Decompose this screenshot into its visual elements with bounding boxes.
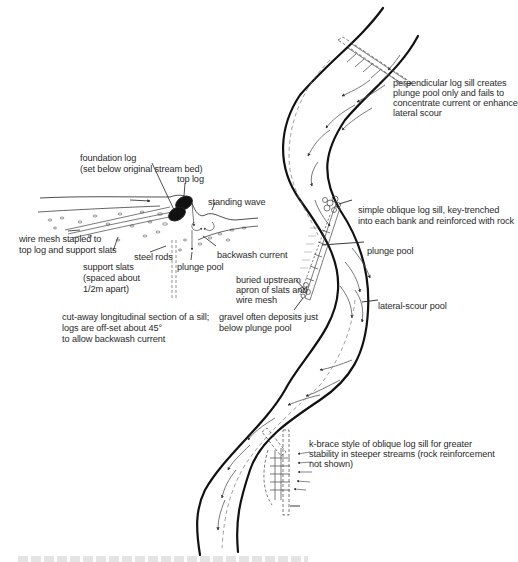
label-oblique-line2: into each bank and reinforced with rock (358, 216, 514, 227)
label-section-plunge-pool: plunge pool (177, 262, 223, 273)
label-plan-plunge-pool: plunge pool (367, 246, 413, 257)
label-gravel-line2: below plunge pool (219, 323, 291, 334)
upstream-apron-hatch (300, 228, 318, 268)
stream-plan-view (197, 8, 418, 555)
label-top-log: top log (177, 174, 204, 185)
section-description-line2: logs are off-set about 45° (62, 323, 162, 334)
label-perpendicular-line4: lateral scour (393, 108, 442, 119)
label-standing-wave: standing wave (208, 197, 265, 208)
label-buried-apron-line3: wire mesh (236, 295, 277, 306)
label-gravel-line1: gravel often deposits just (219, 312, 318, 323)
streambed-downstream (198, 226, 258, 240)
figure-caption-cropped (18, 556, 308, 562)
label-wire-mesh-line1: wire mesh stapled to (19, 234, 101, 245)
section-description-line1: cut-away longitudinal section of a sill; (62, 312, 209, 323)
label-lateral-scour-pool: lateral-scour pool (378, 301, 447, 312)
label-steel-rods: steel rods (134, 252, 173, 263)
label-wire-mesh-line2: top log and support slats (19, 245, 117, 256)
label-foundation-log: foundation log (80, 153, 136, 164)
section-description-line3: to allow backwash current (62, 334, 165, 345)
label-kbrace-line3: not shown) (309, 459, 353, 470)
label-support-slats-line1: support slats (83, 262, 134, 273)
label-backwash-current: backwash current (217, 250, 287, 261)
label-oblique-line1: simple oblique log sill, key-trenched (358, 205, 499, 216)
label-support-slats-line3: 1/2m apart) (83, 284, 129, 295)
flow-arrow-section (130, 200, 150, 201)
steel-rod (172, 240, 176, 300)
label-support-slats-line2: (spaced about (83, 273, 140, 284)
